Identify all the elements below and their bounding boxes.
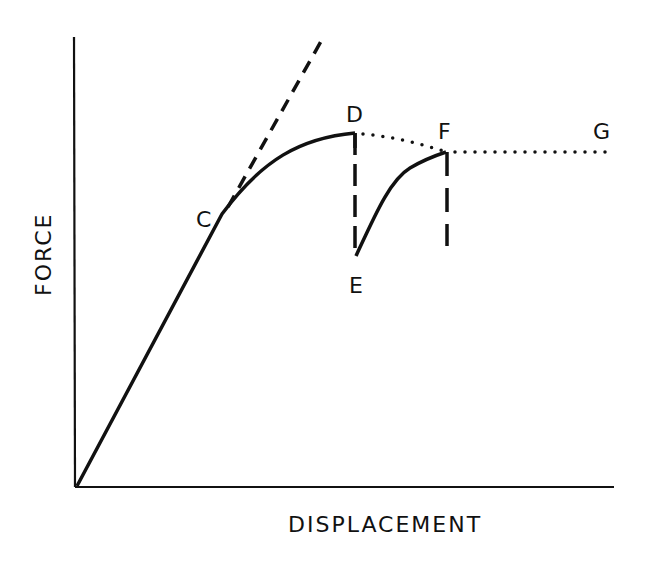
label-c: C <box>196 207 211 232</box>
label-e: E <box>349 273 363 298</box>
x-axis-label: DISPLACEMENT <box>288 512 482 537</box>
force-displacement-diagram: C D E F G DISPLACEMENT FORCE <box>0 0 646 567</box>
label-d: D <box>346 102 363 127</box>
label-f: F <box>438 119 451 144</box>
y-axis-label: FORCE <box>31 213 56 296</box>
tangent-extension-line <box>228 36 324 207</box>
reload-curve <box>356 152 446 256</box>
y-axis <box>74 37 75 487</box>
label-g: G <box>593 119 610 144</box>
loading-curve <box>77 133 355 486</box>
envelope-decay-dotted <box>363 134 446 152</box>
